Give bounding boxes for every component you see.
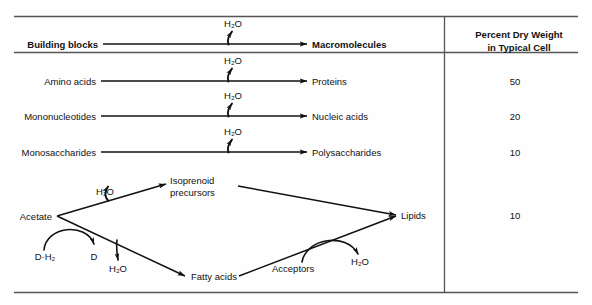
label-byproduct-isoprenoid: H₂O — [85, 186, 125, 197]
label-isoprenoid-precursors: Isoprenoid precursors — [170, 175, 215, 199]
column-header-line-2: in Typical Cell — [459, 41, 579, 54]
redox-arc-d — [44, 230, 94, 250]
label-oxidant-d: D — [78, 251, 110, 262]
label-byproduct-row-0: H₂O — [213, 55, 253, 66]
figure-panel: Percent Dry Weight in Typical Cell Build… — [0, 0, 592, 305]
label-reactant-monosaccharides: Monosaccharides — [0, 147, 96, 158]
label-reactant-mononucleotides: Mononucleotides — [0, 111, 96, 122]
label-macromolecules: Macromolecules — [312, 39, 386, 50]
reaction-arrow-header — [103, 32, 307, 45]
label-product-proteins: Proteins — [312, 76, 347, 87]
column-header-line-1: Percent Dry Weight — [459, 28, 579, 41]
percent-lipids: 10 — [495, 210, 535, 221]
label-acetate: Acetate — [0, 211, 52, 222]
percent-proteins: 50 — [495, 76, 535, 87]
percent-polysaccharides: 10 — [495, 147, 535, 158]
label-byproduct-header: H₂O — [213, 18, 253, 29]
label-isoprenoid-precursors-line-2: precursors — [170, 187, 215, 199]
reaction-arrow-row-2 — [101, 140, 307, 153]
percent-nucleic-acids: 20 — [495, 111, 535, 122]
label-byproduct-row-2: H₂O — [213, 126, 253, 137]
label-byproduct-row-1: H₂O — [213, 90, 253, 101]
label-byproduct-fattyacids: H₂O — [98, 263, 138, 274]
column-header: Percent Dry Weight in Typical Cell — [459, 28, 579, 54]
byproduct-arrow-fattyacids — [117, 240, 118, 260]
reaction-arrow-row-0 — [101, 69, 307, 82]
label-reductant-dh2: D·H₂ — [22, 251, 68, 262]
label-fatty-acids: Fatty acids — [191, 271, 237, 282]
label-product-nucleic-acids: Nucleic acids — [312, 111, 368, 122]
label-byproduct-lipids: H₂O — [340, 256, 380, 267]
label-product-polysaccharides: Polysaccharides — [312, 147, 381, 158]
label-reactant-amino-acids: Amino acids — [0, 76, 96, 87]
label-acceptors: Acceptors — [272, 263, 314, 274]
label-building-blocks: Building blocks — [0, 39, 98, 50]
label-isoprenoid-precursors-line-1: Isoprenoid — [170, 175, 215, 187]
reaction-arrow-row-1 — [101, 104, 307, 117]
label-lipids: Lipids — [401, 210, 426, 221]
